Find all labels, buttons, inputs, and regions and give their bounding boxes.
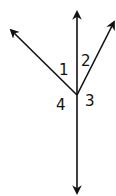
angle-diagram: 1 2 3 4 [0,0,116,196]
angle-label-1: 1 [59,61,69,79]
angle-label-2: 2 [81,52,91,70]
angle-label-4: 4 [56,96,66,114]
angle-label-3: 3 [85,92,95,110]
